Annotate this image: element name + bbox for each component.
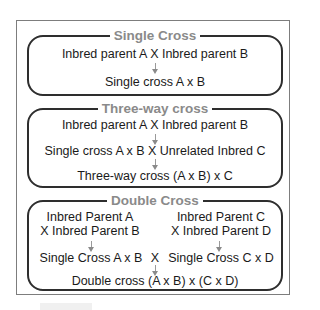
footer-placeholder — [40, 303, 92, 310]
section-title: Double Cross — [29, 193, 281, 209]
parents-line: Inbred parent A X Inbred parent B — [29, 47, 281, 62]
right-parent-2: X Inbred Parent D — [165, 224, 277, 239]
result-line: Double cross (A x B) x (C x D) — [29, 274, 281, 289]
parents-line: Inbred parent A X Inbred parent B — [29, 118, 281, 133]
single-cross-section: Single Cross Inbred parent A X Inbred pa… — [27, 35, 283, 96]
three-way-cross-section: Three-way cross Inbred parent A X Inbred… — [27, 108, 283, 188]
right-single-cross: Single Cross C x D — [163, 251, 279, 266]
left-parent-1: Inbred Parent A — [35, 210, 145, 225]
result-line: Three-way cross (A x B) x C — [29, 169, 281, 184]
left-single-cross: Single Cross A x B — [35, 251, 147, 266]
section-title: Single Cross — [29, 28, 281, 44]
double-cross-section: Double Cross Inbred Parent A X Inbred Pa… — [27, 200, 283, 291]
left-parent-2: X Inbred Parent B — [35, 224, 145, 239]
cross-symbol: X — [147, 251, 163, 266]
section-title: Three-way cross — [29, 101, 281, 117]
single-cross-line: Single cross A x B X Unrelated Inbred C — [29, 144, 281, 159]
result-line: Single cross A x B — [29, 75, 281, 90]
right-parent-1: Inbred Parent C — [165, 210, 277, 225]
